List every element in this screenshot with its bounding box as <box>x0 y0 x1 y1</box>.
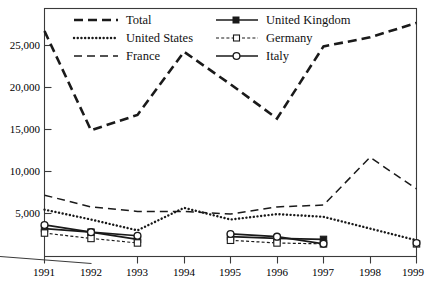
chart-background <box>0 0 427 287</box>
y-label-20000: 20,000 <box>10 81 41 93</box>
x-label-1995: 1995 <box>219 266 242 278</box>
legend-label-united-states: United States <box>126 31 193 45</box>
legend-label-italy: Italy <box>266 49 290 63</box>
x-label-1997: 1997 <box>312 266 335 278</box>
x-label-1998: 1998 <box>359 266 382 278</box>
legend-marker-germany <box>234 35 240 41</box>
line-chart: 25,000 20,000 15,000 10,000 5,000 1991 1… <box>0 0 427 287</box>
y-label-5000: 5,000 <box>15 207 40 219</box>
series-marker-germany <box>227 237 233 243</box>
x-label-1992: 1992 <box>80 266 102 278</box>
series-marker-italy <box>413 240 420 247</box>
legend-label-total: Total <box>126 13 152 27</box>
legend-label-germany: Germany <box>266 31 313 45</box>
x-label-1993: 1993 <box>126 266 149 278</box>
x-label-1996: 1996 <box>266 266 289 278</box>
y-label-25000: 25,000 <box>10 39 41 51</box>
x-label-1994: 1994 <box>173 266 196 278</box>
legend-marker-united-kingdom <box>233 17 239 23</box>
series-marker-italy <box>274 233 281 240</box>
series-marker-italy <box>41 222 48 229</box>
series-marker-italy <box>227 231 234 238</box>
series-marker-italy <box>88 229 95 236</box>
series-marker-germany <box>274 240 280 246</box>
series-marker-germany <box>41 230 47 236</box>
legend-marker-italy <box>233 53 240 60</box>
series-marker-italy <box>134 232 141 239</box>
x-label-1991: 1991 <box>33 266 55 278</box>
series-marker-germany <box>88 235 94 241</box>
legend-label-france: France <box>126 49 160 63</box>
y-label-10000: 10,000 <box>10 165 41 177</box>
y-label-15000: 15,000 <box>10 123 41 135</box>
legend-label-united-kingdom: United Kingdom <box>266 13 351 27</box>
series-marker-germany <box>134 240 140 246</box>
chart-canvas: 25,000 20,000 15,000 10,000 5,000 1991 1… <box>0 0 427 287</box>
x-axis-labels: 1991 1992 1993 1994 1995 1996 1997 1998 … <box>33 266 425 278</box>
x-label-1999: 1999 <box>402 266 425 278</box>
series-marker-italy <box>320 240 327 247</box>
